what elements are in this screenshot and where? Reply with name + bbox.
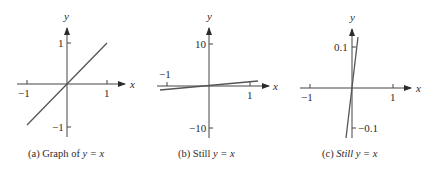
- caption-b: (b) Still y = x: [178, 148, 235, 160]
- x-axis-label: x: [415, 82, 421, 94]
- y-axis-label: y: [63, 10, 69, 22]
- caption-equation: y = x: [212, 148, 235, 159]
- caption-prefix: (c): [322, 148, 336, 160]
- caption-equation: y = x: [82, 148, 105, 159]
- y-tick-label-1: 1: [58, 37, 64, 49]
- y-tick-label-0.1: 0.1: [334, 41, 348, 53]
- x-tick-label-neg1: −1: [301, 91, 313, 103]
- x-tick-label-neg1: −1: [159, 68, 171, 80]
- y-tick-label-neg10: −10: [189, 122, 207, 134]
- caption-still: Still: [336, 148, 353, 159]
- figure-canvas: y x −1 1 1 −1 (a) Graph of y = x y x −1 …: [0, 0, 434, 169]
- x-tick-label-1: 1: [247, 89, 253, 101]
- graph-a: y x −1 1 1 −1 (a) Graph of y = x: [17, 10, 135, 160]
- y-tick-label-neg0.1: −0.1: [358, 122, 378, 134]
- y-tick-label-neg1: −1: [52, 121, 64, 133]
- y-tick-label-10: 10: [195, 38, 207, 50]
- graph-b: y x −1 1 10 −10 (b) Still y = x: [157, 10, 278, 160]
- x-tick-label-1: 1: [390, 91, 396, 103]
- x-tick-label-neg1: −1: [18, 87, 30, 99]
- caption-equation: y = x: [353, 148, 378, 159]
- y-axis-label: y: [349, 11, 355, 23]
- y-axis-label: y: [206, 10, 212, 22]
- x-axis-label: x: [272, 80, 278, 92]
- caption-a: (a) Graph of y = x: [28, 148, 105, 160]
- graph-c: y x −1 1 0.1 −0.1 (c) Still y = x: [300, 11, 421, 160]
- caption-prefix: (b) Still: [178, 148, 213, 160]
- caption-prefix: (a) Graph of: [28, 148, 83, 160]
- x-axis-label: x: [129, 78, 135, 90]
- x-tick-label-1: 1: [104, 87, 110, 99]
- caption-c: (c) Still y = x: [322, 148, 378, 160]
